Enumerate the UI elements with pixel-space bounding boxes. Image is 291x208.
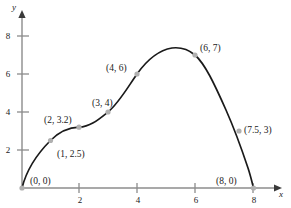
y-axis-arrow-icon: [18, 10, 25, 18]
point-annotation-1-2-5: (1, 2.5): [57, 150, 85, 160]
y-tick-label-8: 8: [3, 32, 13, 41]
x-tick-label-8: 8: [248, 196, 260, 205]
data-point-marker: [76, 125, 81, 130]
data-point-marker: [19, 185, 24, 190]
x-tick-label-6: 6: [190, 196, 202, 205]
y-axis-label: y: [12, 3, 16, 12]
point-annotation-7-5-3: (7.5, 3): [244, 126, 272, 136]
y-tick-marks: [17, 36, 29, 150]
point-annotation-0-0: (0, 0): [30, 177, 51, 187]
chart-figure: y x 2 4 6 8 2 4 6 8 (0, 0) (1, 2.5) (2, …: [0, 0, 291, 208]
point-annotation-3-4: (3, 4): [92, 99, 113, 109]
y-tick-label-2: 2: [3, 146, 13, 155]
y-tick-label-4: 4: [3, 108, 13, 117]
x-axis-label: x: [279, 190, 283, 199]
y-tick-label-6: 6: [3, 70, 13, 79]
data-point-marker: [48, 138, 53, 143]
x-tick-label-2: 2: [74, 196, 86, 205]
data-point-marker: [134, 71, 139, 76]
point-annotation-4-6: (4, 6): [106, 64, 127, 74]
point-annotation-6-7: (6, 7): [200, 44, 221, 54]
point-annotation-2-3-2: (2, 3.2): [44, 116, 72, 126]
data-point-marker: [105, 109, 110, 114]
point-annotation-8-0: (8, 0): [216, 177, 237, 187]
data-point-marker: [251, 185, 256, 190]
data-point-marker: [192, 52, 197, 57]
x-tick-label-4: 4: [132, 196, 144, 205]
data-point-marker: [236, 128, 241, 133]
